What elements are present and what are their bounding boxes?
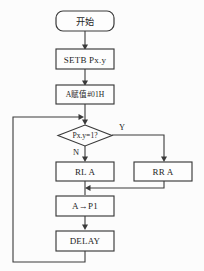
node-rotate-right-label: RR A xyxy=(152,167,173,177)
node-decision-label: Px.y=1? xyxy=(72,131,98,140)
node-rotate-left[interactable]: RL A xyxy=(56,162,114,181)
node-rotate-right[interactable]: RR A xyxy=(134,162,192,181)
node-output-label: A→P1 xyxy=(72,201,98,211)
branch-label-yes: Y xyxy=(119,123,125,132)
branch-label-no: N xyxy=(73,148,79,157)
edge-setb-to-assign xyxy=(82,69,88,86)
node-assign[interactable]: A赋值#01H xyxy=(56,85,114,104)
node-assign-label: A赋值#01H xyxy=(66,89,105,99)
flowchart-canvas: 开始 SETB Px.y A赋值#01H Px.y=1? Y N RL A RR xyxy=(0,0,204,271)
flowchart-svg: 开始 SETB Px.y A赋值#01H Px.y=1? Y N RL A RR xyxy=(0,0,204,271)
node-decision[interactable]: Px.y=1? xyxy=(58,125,112,146)
node-rotate-left-label: RL A xyxy=(75,167,96,177)
node-delay[interactable]: DELAY xyxy=(56,231,114,251)
edge-output-to-delay xyxy=(82,216,88,230)
edge-decision-no-to-rotate-left xyxy=(82,146,88,162)
node-setb-label: SETB Px.y xyxy=(64,55,107,65)
node-start-label: 开始 xyxy=(76,16,95,27)
node-setb[interactable]: SETB Px.y xyxy=(56,49,114,69)
node-start[interactable]: 开始 xyxy=(56,11,114,31)
edge-decision-yes-to-rotate-right xyxy=(112,135,167,162)
node-output[interactable]: A→P1 xyxy=(56,196,114,216)
node-delay-label: DELAY xyxy=(70,236,101,246)
edge-start-to-setb xyxy=(82,31,88,50)
edge-rotate-right-to-output xyxy=(85,181,164,191)
edge-assign-to-decision xyxy=(82,104,88,125)
